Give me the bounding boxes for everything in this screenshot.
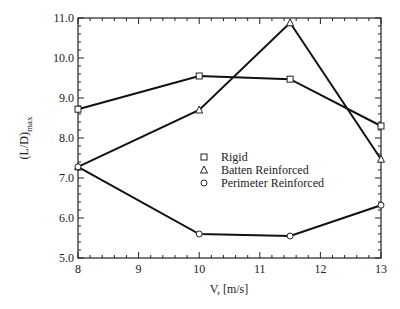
y-axis-label: (L/D)max: [17, 116, 34, 159]
circle-marker-icon: [287, 233, 293, 239]
square-marker-icon: [196, 73, 202, 79]
legend-label: Batten Reinforced: [221, 163, 309, 177]
line-chart: 8910111213 5.06.07.08.09.010.011.0 Rigid…: [0, 0, 400, 309]
y-axis-label-subscript: max: [24, 116, 34, 132]
y-tick-label: 8.0: [59, 131, 74, 145]
x-tick-label: 9: [136, 262, 142, 276]
y-tick-label: 11.0: [53, 11, 74, 25]
circle-legend-icon: [201, 180, 207, 186]
triangle-marker-icon: [287, 19, 294, 26]
plot-frame: [78, 18, 381, 258]
x-tick-label: 11: [254, 262, 266, 276]
square-legend-icon: [201, 154, 207, 160]
series-markers: [75, 19, 385, 239]
circle-marker-icon: [196, 231, 202, 237]
y-axis-label-main: (L/D): [17, 132, 31, 159]
legend: RigidBatten ReinforcedPerimeter Reinforc…: [201, 150, 324, 190]
series-line-rigid: [78, 76, 381, 126]
x-tick-label: 8: [75, 262, 81, 276]
circle-marker-icon: [378, 202, 384, 208]
series-lines: [78, 23, 381, 236]
square-marker-icon: [75, 106, 81, 112]
legend-label: Perimeter Reinforced: [221, 176, 324, 190]
series-line-batten-reinforced: [78, 23, 381, 167]
x-tick-label: 10: [193, 262, 205, 276]
legend-label: Rigid: [221, 150, 248, 164]
axis-ticks: [78, 18, 381, 258]
plot-border: [78, 18, 381, 258]
y-tick-label: 5.0: [59, 251, 74, 265]
y-tick-labels: 5.06.07.08.09.010.011.0: [53, 11, 74, 265]
x-tick-label: 12: [314, 262, 326, 276]
triangle-legend-icon: [201, 166, 208, 173]
y-tick-label: 7.0: [59, 171, 74, 185]
x-tick-labels: 8910111213: [75, 262, 387, 276]
circle-marker-icon: [75, 164, 81, 170]
y-tick-label: 6.0: [59, 211, 74, 225]
y-tick-label: 10.0: [53, 51, 74, 65]
y-tick-label: 9.0: [59, 91, 74, 105]
x-axis-label: V, [m/s]: [210, 282, 248, 296]
square-marker-icon: [287, 76, 293, 82]
x-tick-label: 13: [375, 262, 387, 276]
square-marker-icon: [378, 123, 384, 129]
